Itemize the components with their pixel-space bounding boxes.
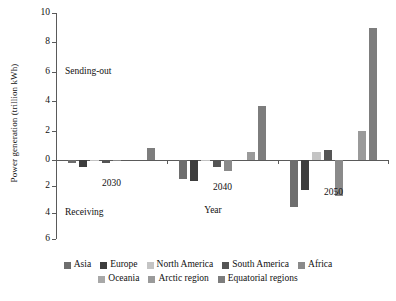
legend-row-2: OceaniaArctic regionEquatorial regions <box>0 272 396 286</box>
bar-2050-europe <box>301 160 309 190</box>
legend-label: Equatorial regions <box>228 274 298 284</box>
x-group-label-2040: 2040 <box>213 182 232 192</box>
annotation-receiving: Receiving <box>65 207 104 217</box>
legend-label: Arctic region <box>158 274 208 284</box>
legend-item-south-america[interactable]: South America <box>222 260 289 270</box>
legend-swatch-icon <box>222 262 229 269</box>
bar-2030-north-america <box>90 160 98 161</box>
legend-label: North America <box>157 260 214 270</box>
legend: AsiaEuropeNorth AmericaSouth AmericaAfri… <box>0 258 396 286</box>
legend-swatch-icon <box>100 262 107 269</box>
bar-2040-equatorial-regions <box>258 106 266 160</box>
y-tick-label: 2 <box>45 182 50 192</box>
x-group-label-2050: 2050 <box>324 187 343 197</box>
y-tick-label: 6 <box>45 234 50 244</box>
y-tick <box>52 239 56 240</box>
legend-item-oceania[interactable]: Oceania <box>98 274 139 284</box>
y-axis-title: Power generation (trillion kWh) <box>9 23 19 223</box>
legend-item-equatorial-regions[interactable]: Equatorial regions <box>218 274 298 284</box>
y-tick-label: 6 <box>45 67 50 77</box>
y-tick-label: 2 <box>45 126 50 136</box>
legend-label: South America <box>232 260 289 270</box>
legend-swatch-icon <box>218 276 225 283</box>
bar-2050-equatorial-regions <box>369 28 377 160</box>
legend-swatch-icon <box>298 262 305 269</box>
bar-chart: Power generation (trillion kWh) 10864202… <box>0 0 396 301</box>
bar-2030-europe <box>79 160 87 167</box>
legend-item-africa[interactable]: Africa <box>298 260 332 270</box>
bar-2050-north-america <box>312 152 320 160</box>
legend-row-1: AsiaEuropeNorth AmericaSouth AmericaAfri… <box>0 258 396 272</box>
legend-item-asia[interactable]: Asia <box>64 260 91 270</box>
bar-2040-europe <box>190 160 198 181</box>
legend-swatch-icon <box>148 276 155 283</box>
x-group-label-2030: 2030 <box>102 178 121 188</box>
legend-label: Asia <box>74 260 91 270</box>
bar-2030-africa <box>113 160 121 161</box>
y-tick-label: 10 <box>41 8 51 18</box>
y-tick-label: 4 <box>45 208 50 218</box>
y-tick-label: 0 <box>45 155 50 165</box>
bar-2040-south-america <box>213 160 221 167</box>
legend-item-europe[interactable]: Europe <box>100 260 137 270</box>
bar-2050-asia <box>290 160 298 207</box>
bar-group-2050 <box>278 13 389 239</box>
bar-group-2030 <box>56 13 167 239</box>
legend-swatch-icon <box>98 276 105 283</box>
y-tick-label: 8 <box>45 38 50 48</box>
bar-2030-asia <box>68 160 76 163</box>
plot-area: 1086420246 Sending-outReceiving <box>56 13 389 239</box>
annotation-sending-out: Sending-out <box>65 66 111 76</box>
y-tick-label: 4 <box>45 96 50 106</box>
legend-label: Africa <box>308 260 332 270</box>
bar-group-2040 <box>167 13 278 239</box>
x-axis-title: Year <box>204 205 222 215</box>
bar-2030-south-america <box>102 160 110 163</box>
legend-swatch-icon <box>64 262 71 269</box>
bar-2040-north-america <box>201 160 209 161</box>
bar-2040-africa <box>224 160 232 171</box>
bar-2050-south-america <box>324 150 332 160</box>
legend-label: Europe <box>110 260 137 270</box>
legend-label: Oceania <box>108 274 139 284</box>
legend-item-north-america[interactable]: North America <box>147 260 214 270</box>
bar-2040-asia <box>179 160 187 179</box>
legend-swatch-icon <box>147 262 154 269</box>
bar-2050-arctic-region <box>358 131 366 160</box>
bar-2030-equatorial-regions <box>147 148 155 160</box>
legend-item-arctic-region[interactable]: Arctic region <box>148 274 208 284</box>
bar-2040-arctic-region <box>247 152 255 160</box>
